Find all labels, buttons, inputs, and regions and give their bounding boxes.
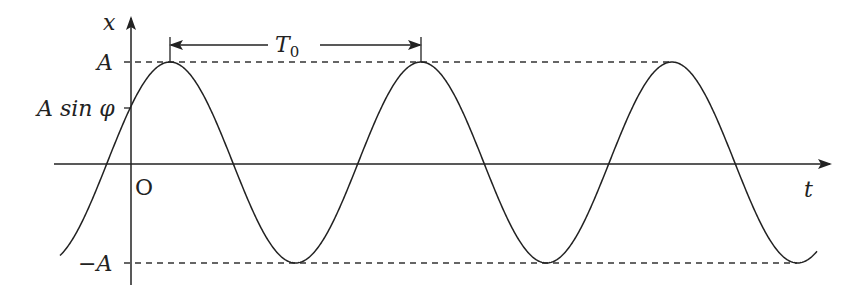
- a-sin-phi-label: A sin φ: [35, 96, 115, 121]
- shm-diagram: x t O A A sin φ −A T0: [0, 0, 857, 307]
- y-axis-label: x: [103, 10, 116, 35]
- neg-amplitude-label: −A: [78, 251, 112, 276]
- amplitude-label: A: [95, 50, 113, 75]
- sine-wave-curve: [60, 62, 817, 263]
- origin-label: O: [135, 175, 153, 200]
- x-axis-label: t: [804, 177, 813, 202]
- period-label: T0: [275, 32, 299, 61]
